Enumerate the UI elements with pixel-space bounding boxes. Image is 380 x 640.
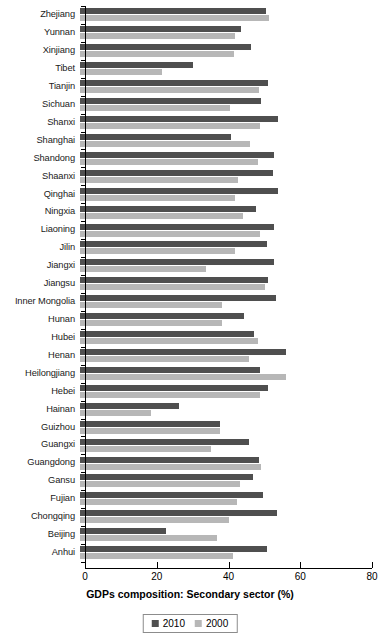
bar-2000-tianjin[interactable]	[80, 87, 259, 93]
chart-row: Fujian	[0, 490, 380, 508]
bar-2000-henan[interactable]	[80, 356, 249, 362]
x-axis-tick	[300, 562, 301, 568]
bar-2000-chongqing[interactable]	[80, 517, 229, 523]
category-label-hubei: Hubei	[0, 329, 80, 347]
bar-group	[80, 6, 380, 24]
bar-2000-jiangsu[interactable]	[80, 284, 265, 290]
x-axis-tick	[372, 562, 373, 568]
category-label-hunan: Hunan	[0, 311, 80, 329]
y-axis-tick	[81, 275, 85, 276]
x-axis-tick-label: 60	[295, 572, 306, 582]
chart-row: Liaoning	[0, 221, 380, 239]
category-label-guangxi: Guangxi	[0, 436, 80, 454]
bar-2000-tibet[interactable]	[80, 69, 162, 75]
chart-row: Beijing	[0, 526, 380, 544]
category-label-tianjin: Tianjin	[0, 78, 80, 96]
y-axis-tick	[81, 96, 85, 97]
bar-group	[80, 203, 380, 221]
category-label-jiangxi: Jiangxi	[0, 257, 80, 275]
y-axis-tick	[81, 365, 85, 366]
bar-2000-hainan[interactable]	[80, 410, 151, 416]
legend-label-2000: 2000	[206, 618, 228, 629]
chart-row: Jilin	[0, 239, 380, 257]
category-label-qinghai: Qinghai	[0, 185, 80, 203]
chart-row: Qinghai	[0, 185, 380, 203]
category-label-shanxi: Shanxi	[0, 114, 80, 132]
chart-legend: 2010 2000	[143, 614, 238, 633]
x-axis-tick	[157, 562, 158, 568]
y-axis-tick	[81, 60, 85, 61]
category-label-jiangsu: Jiangsu	[0, 275, 80, 293]
chart-row: Jiangxi	[0, 257, 380, 275]
chart-row: Zhejiang	[0, 6, 380, 24]
chart-row: Jiangsu	[0, 275, 380, 293]
bar-2000-beijing[interactable]	[80, 535, 217, 541]
x-axis-tick	[229, 562, 230, 568]
y-axis-tick	[81, 78, 85, 79]
chart-row: Sichuan	[0, 96, 380, 114]
legend-swatch-2010-icon	[152, 620, 159, 627]
bar-2000-guangxi[interactable]	[80, 446, 211, 452]
category-label-inner-mongolia: Inner Mongolia	[0, 293, 80, 311]
chart-row: Tibet	[0, 60, 380, 78]
bar-2000-heilongjiang[interactable]	[80, 374, 286, 380]
bar-2000-jilin[interactable]	[80, 248, 235, 254]
bar-2000-xinjiang[interactable]	[80, 51, 234, 57]
x-axis-tick-label: 80	[366, 572, 377, 582]
bar-2000-guizhou[interactable]	[80, 428, 220, 434]
bar-2000-shanxi[interactable]	[80, 123, 260, 129]
bar-2000-hubei[interactable]	[80, 338, 258, 344]
legend-item-2000[interactable]: 2000	[195, 618, 228, 629]
legend-item-2010[interactable]: 2010	[152, 618, 185, 629]
chart-row: Shanghai	[0, 131, 380, 149]
bar-group	[80, 275, 380, 293]
bar-2000-sichuan[interactable]	[80, 105, 230, 111]
chart-row: Tianjin	[0, 78, 380, 96]
bar-2000-zhejiang[interactable]	[80, 15, 269, 21]
y-axis-tick	[81, 293, 85, 294]
y-axis-tick	[81, 311, 85, 312]
bar-group	[80, 257, 380, 275]
category-label-heilongjiang: Heilongjiang	[0, 364, 80, 382]
category-label-guangdong: Guangdong	[0, 454, 80, 472]
bar-2000-ningxia[interactable]	[80, 213, 243, 219]
bar-2000-anhui[interactable]	[80, 553, 233, 559]
bar-group	[80, 364, 380, 382]
chart-row: Xinjiang	[0, 42, 380, 60]
y-axis-tick	[81, 508, 85, 509]
category-label-zhejiang: Zhejiang	[0, 6, 80, 24]
y-axis-tick	[81, 419, 85, 420]
y-axis-tick	[81, 347, 85, 348]
bar-2000-gansu[interactable]	[80, 481, 240, 487]
chart-row: Hunan	[0, 311, 380, 329]
bar-group	[80, 78, 380, 96]
y-axis-tick	[81, 383, 85, 384]
category-label-shaanxi: Shaanxi	[0, 167, 80, 185]
bar-2000-shaanxi[interactable]	[80, 177, 238, 183]
bar-2000-shandong[interactable]	[80, 159, 258, 165]
bar-group	[80, 329, 380, 347]
bar-group	[80, 114, 380, 132]
y-axis-tick	[81, 132, 85, 133]
bar-2000-hebei[interactable]	[80, 392, 260, 398]
bar-2000-hunan[interactable]	[80, 320, 222, 326]
bar-2000-guangdong[interactable]	[80, 464, 261, 470]
bar-2000-inner-mongolia[interactable]	[80, 302, 222, 308]
chart-row: Guangdong	[0, 454, 380, 472]
chart-rows: ZhejiangYunnanXinjiangTibetTianjinSichua…	[0, 6, 380, 562]
bar-2000-yunnan[interactable]	[80, 33, 235, 39]
bar-2000-jiangxi[interactable]	[80, 266, 206, 272]
category-label-shanghai: Shanghai	[0, 131, 80, 149]
x-axis-tick	[85, 562, 86, 568]
bar-2000-fujian[interactable]	[80, 499, 237, 505]
bar-2000-shanghai[interactable]	[80, 141, 250, 147]
category-label-xinjiang: Xinjiang	[0, 42, 80, 60]
bar-group	[80, 167, 380, 185]
bar-group	[80, 311, 380, 329]
bar-2000-liaoning[interactable]	[80, 231, 260, 237]
bar-group	[80, 544, 380, 562]
bar-2000-qinghai[interactable]	[80, 195, 235, 201]
category-label-hebei: Hebei	[0, 382, 80, 400]
category-label-fujian: Fujian	[0, 490, 80, 508]
y-axis-tick	[81, 472, 85, 473]
